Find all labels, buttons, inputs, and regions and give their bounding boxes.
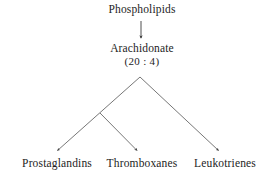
- pathway-diagram: Phospholipids Arachidonate (20 : 4) Pros…: [0, 0, 269, 179]
- node-prostaglandins-label: Prostaglandins: [22, 157, 92, 169]
- edge-arachidonate-to-prostaglandins: [58, 77, 141, 151]
- node-phospholipids: Phospholipids: [108, 3, 175, 16]
- node-arachidonate-label: Arachidonate: [110, 42, 174, 55]
- node-prostaglandins: Prostaglandins: [22, 157, 92, 170]
- node-arachidonate-detail: (20 : 4): [110, 55, 174, 68]
- node-arachidonate: Arachidonate (20 : 4): [110, 42, 174, 68]
- node-thromboxanes-label: Thromboxanes: [107, 157, 178, 169]
- node-leukotrienes: Leukotrienes: [194, 157, 256, 170]
- edge-arachidonate-to-leukotrienes: [140, 77, 219, 151]
- node-thromboxanes: Thromboxanes: [107, 157, 178, 170]
- pathway-edges-svg: [0, 0, 269, 179]
- edge-branch-to-thromboxanes: [100, 113, 137, 151]
- node-phospholipids-label: Phospholipids: [108, 3, 175, 15]
- node-leukotrienes-label: Leukotrienes: [194, 157, 256, 169]
